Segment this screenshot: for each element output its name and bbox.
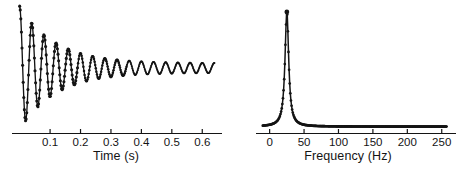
frequency-spectrum-group [256, 10, 456, 134]
figure-container: Time (s) 0.10.20.30.40.50.6 Frequency (H… [0, 0, 464, 177]
time-x-tick-label: 0.1 [42, 137, 58, 149]
time-series-line [20, 6, 215, 121]
time-x-tick-label: 0.4 [133, 137, 149, 149]
panel-frequency-spectrum: Frequency (Hz) 050100150200250 [232, 0, 464, 177]
freq-x-tick-label: 150 [363, 137, 382, 149]
time-axis-title: Time (s) [0, 150, 232, 163]
freq-x-tick-label: 0 [266, 137, 272, 149]
freq-x-tick-label: 50 [298, 137, 311, 149]
freq-x-tick-label: 100 [329, 137, 348, 149]
time-x-tick-label: 0.2 [73, 137, 89, 149]
time-x-tick-label: 0.3 [103, 137, 119, 149]
time-series-group [12, 5, 222, 134]
peak-marker [284, 10, 289, 15]
time-x-tick-label: 0.6 [194, 137, 210, 149]
freq-x-tick-label: 200 [398, 137, 417, 149]
time-series-markers [18, 5, 215, 123]
frequency-axis-title: Frequency (Hz) [232, 150, 464, 163]
panel-time-series: Time (s) 0.10.20.30.40.50.6 [0, 0, 232, 177]
freq-x-tick-label: 250 [432, 137, 451, 149]
frequency-spectrum-markers [261, 10, 448, 128]
time-x-tick-label: 0.5 [164, 137, 180, 149]
